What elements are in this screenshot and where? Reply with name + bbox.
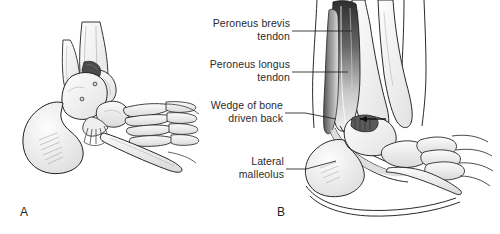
label-line-2: tendon <box>257 71 290 83</box>
panel-letter-b: B <box>277 205 285 219</box>
label-line-1: Wedge of bone <box>211 99 283 111</box>
midfoot-bones-b <box>381 137 464 195</box>
label-line-1: Peroneus longus <box>210 58 290 70</box>
label-line-2: driven back <box>228 112 283 124</box>
figure-container: Peroneus brevistendon Peroneus longusten… <box>0 0 500 234</box>
label-wedge-of-bone: Wedge of bonedriven back <box>211 99 283 124</box>
label-line-1: Peroneus brevis <box>213 17 290 29</box>
label-line-1: Lateral <box>251 155 284 167</box>
label-lateral-malleolus: Lateralmalleolus <box>239 155 284 180</box>
panel-letter-a: A <box>20 205 28 219</box>
label-line-2: malleolus <box>239 168 284 180</box>
label-peroneus-longus-tendon: Peroneus longustendon <box>210 58 290 83</box>
label-line-2: tendon <box>257 30 290 42</box>
metatarsal-bones <box>124 102 199 147</box>
label-peroneus-brevis-tendon: Peroneus brevistendon <box>213 17 290 42</box>
panel-a-illustration <box>23 22 199 174</box>
panel-b-illustration <box>285 0 493 216</box>
